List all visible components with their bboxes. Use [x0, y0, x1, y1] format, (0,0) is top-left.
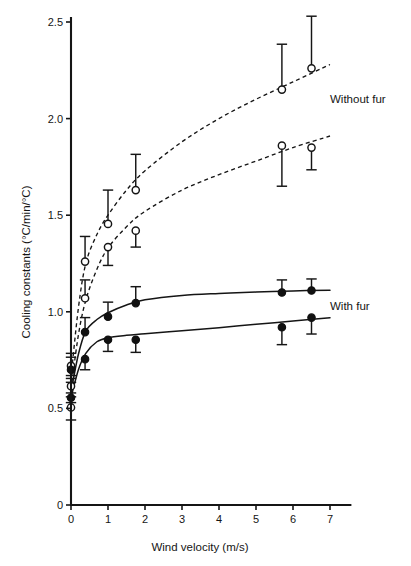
data-point-filled-circle [308, 287, 315, 294]
x-tick-label: 0 [68, 513, 74, 525]
data-point-filled-circle [104, 336, 111, 343]
data-point-filled-circle [278, 324, 285, 331]
x-tick-label: 4 [216, 513, 222, 525]
series-annotation-label: With fur [330, 300, 370, 312]
cooling-constants-chart: 00.51.01.52.02.501234567 Without furWith… [0, 0, 411, 566]
data-point-filled-circle [278, 289, 285, 296]
x-tick-label: 5 [253, 513, 259, 525]
y-tick-label: 2.5 [48, 16, 63, 28]
annotations-layer: Without furWith fur [330, 93, 386, 312]
series-annotation-label: Without fur [330, 93, 386, 105]
plot-errorbars [66, 16, 317, 420]
y-tick-label: 2.0 [48, 113, 63, 125]
data-point-open-circle [132, 227, 139, 234]
x-tick-label: 6 [290, 513, 296, 525]
data-point-filled-circle [81, 328, 88, 335]
data-point-filled-circle [104, 313, 111, 320]
data-point-open-circle [81, 258, 88, 265]
data-point-open-circle [308, 144, 315, 151]
data-point-filled-circle [81, 355, 88, 362]
x-tick-label: 2 [142, 513, 148, 525]
data-point-open-circle [104, 243, 111, 250]
figure-container: 00.51.01.52.02.501234567 Without furWith… [0, 0, 411, 566]
y-tick-label: 0.5 [48, 402, 63, 414]
series-curve [71, 318, 330, 398]
y-tick-label: 0 [57, 499, 63, 511]
data-point-open-circle [104, 220, 111, 227]
chart-axes [71, 18, 350, 505]
data-point-open-circle [278, 86, 285, 93]
data-point-filled-circle [308, 314, 315, 321]
tick-labels-layer: 00.51.01.52.02.501234567 [48, 16, 333, 525]
y-tick-label: 1.0 [48, 306, 63, 318]
x-tick-label: 3 [179, 513, 185, 525]
plot-curves [71, 65, 330, 398]
data-point-filled-circle [132, 336, 139, 343]
data-point-open-circle [278, 142, 285, 149]
y-axis-title: Cooling constants (°C/min/°C) [20, 185, 32, 338]
data-point-filled-circle [132, 299, 139, 306]
data-point-open-circle [132, 186, 139, 193]
plot-markers [67, 65, 315, 411]
x-axis-title: Wind velocity (m/s) [151, 541, 248, 553]
x-tick-label: 1 [105, 513, 111, 525]
y-tick-label: 1.5 [48, 209, 63, 221]
data-point-open-circle [308, 65, 315, 72]
data-point-open-circle [81, 295, 88, 302]
x-tick-label: 7 [327, 513, 333, 525]
